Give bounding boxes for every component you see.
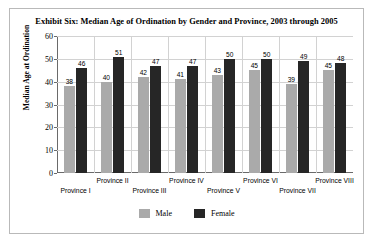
bar-value-label: 40 <box>103 74 110 81</box>
bar-value-label: 42 <box>140 69 147 76</box>
y-tick-label: 0 <box>49 169 53 178</box>
bar-male[interactable]: 43 <box>212 75 223 173</box>
bar-female[interactable]: 50 <box>261 59 272 173</box>
bar-value-label: 45 <box>325 62 332 69</box>
y-tick-label: 30 <box>45 100 53 109</box>
bar-male[interactable]: 41 <box>175 79 186 173</box>
bar-group: 4548 <box>316 36 353 173</box>
chart-title: Exhibit Six: Median Age of Ordination by… <box>10 17 363 26</box>
plot-area: 0102030405060384640514247414743504550394… <box>57 36 353 173</box>
bar-group: 3846 <box>57 36 94 173</box>
bar-value-label: 38 <box>66 78 73 85</box>
legend-item[interactable]: Female <box>194 209 235 218</box>
bar-value-label: 49 <box>300 53 307 60</box>
bar-group: 4051 <box>94 36 131 173</box>
x-axis-label: Province VII <box>279 187 316 194</box>
bar-female[interactable]: 51 <box>113 57 124 173</box>
bar-female[interactable]: 49 <box>298 61 309 173</box>
bar-male[interactable]: 40 <box>101 82 112 173</box>
bar-group: 4550 <box>242 36 279 173</box>
bar-value-label: 48 <box>337 55 344 62</box>
bar-male[interactable]: 45 <box>249 70 260 173</box>
chart-frame: Exhibit Six: Median Age of Ordination by… <box>9 8 364 234</box>
legend-item[interactable]: Male <box>139 209 172 218</box>
x-axis-label: Province VI <box>243 177 278 184</box>
bar-value-label: 47 <box>152 58 159 65</box>
bar-value-label: 51 <box>115 49 122 56</box>
bar-group: 4247 <box>131 36 168 173</box>
y-tick-label: 10 <box>45 146 53 155</box>
bar-female[interactable]: 50 <box>224 59 235 173</box>
chart-legend: MaleFemale <box>10 209 363 218</box>
bar-group: 3949 <box>279 36 316 173</box>
x-axis-label: Province II <box>96 177 128 184</box>
x-axis-label: Province III <box>133 187 167 194</box>
bar-value-label: 50 <box>226 51 233 58</box>
y-tick-label: 40 <box>45 77 53 86</box>
bar-female[interactable]: 46 <box>76 68 87 173</box>
y-axis-title: Median Age at Ordination <box>22 8 31 128</box>
bar-male[interactable]: 38 <box>64 86 75 173</box>
legend-label: Female <box>211 209 235 218</box>
x-axis-label: Province VIII <box>315 177 354 184</box>
bar-value-label: 47 <box>189 58 196 65</box>
bar-value-label: 41 <box>177 71 184 78</box>
y-tick-mark <box>54 173 57 174</box>
bar-female[interactable]: 47 <box>150 66 161 173</box>
bar-female[interactable]: 47 <box>187 66 198 173</box>
y-tick-label: 50 <box>45 54 53 63</box>
bar-value-label: 50 <box>263 51 270 58</box>
x-axis-label: Province V <box>207 187 240 194</box>
bar-male[interactable]: 45 <box>323 70 334 173</box>
bar-group: 4147 <box>168 36 205 173</box>
legend-swatch <box>194 209 205 218</box>
chart-screenshot: Exhibit Six: Median Age of Ordination by… <box>0 0 373 245</box>
legend-swatch <box>139 209 150 218</box>
bar-male[interactable]: 39 <box>286 84 297 173</box>
y-tick-label: 20 <box>45 123 53 132</box>
bar-male[interactable]: 42 <box>138 77 149 173</box>
bar-value-label: 45 <box>251 62 258 69</box>
bar-value-label: 39 <box>288 76 295 83</box>
y-tick-label: 60 <box>45 32 53 41</box>
bar-group: 4350 <box>205 36 242 173</box>
x-axis-label: Province IV <box>169 177 204 184</box>
bar-value-label: 46 <box>78 60 85 67</box>
x-axis-label: Province I <box>60 187 90 194</box>
bar-value-label: 43 <box>214 67 221 74</box>
legend-label: Male <box>156 209 172 218</box>
bar-female[interactable]: 48 <box>335 63 346 173</box>
